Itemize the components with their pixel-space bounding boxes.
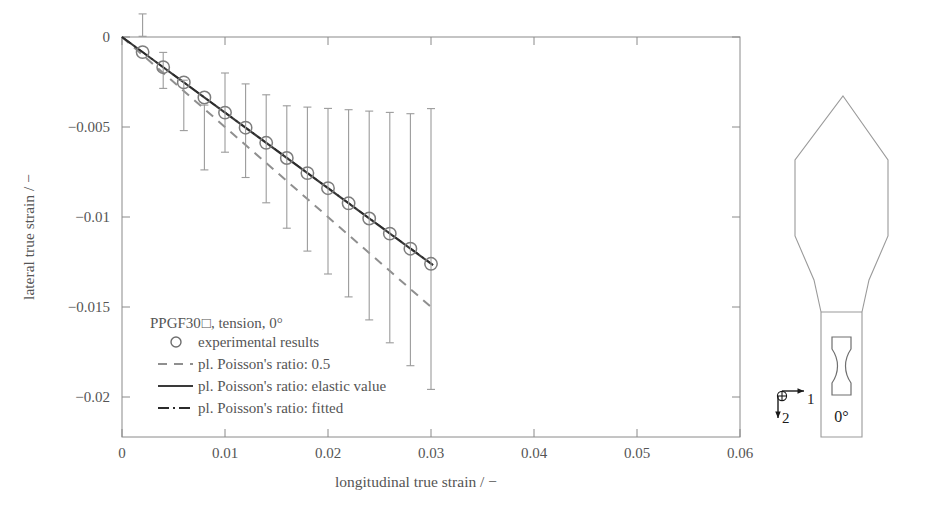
legend-label-experimental: experimental results xyxy=(198,334,319,350)
specimen-diagram: 0° 1 2 xyxy=(775,96,888,437)
y-tick-label: 0 xyxy=(103,29,111,45)
x-tick-label: 0.06 xyxy=(727,445,754,461)
triad-axis-1-arrowhead-icon xyxy=(798,388,805,394)
x-tick-label: 0.04 xyxy=(521,445,548,461)
y-tick-label: −0.02 xyxy=(75,389,110,405)
y-tick-label: −0.015 xyxy=(68,299,110,315)
y-tick-label: −0.01 xyxy=(75,209,110,225)
x-tick-label: 0.02 xyxy=(315,445,341,461)
x-tick-label: 0.01 xyxy=(212,445,238,461)
legend-header-before: PPGF30 xyxy=(150,315,201,331)
x-axis-title: longitudinal true strain / − xyxy=(335,473,497,490)
legend-label-poisson-fitted: pl. Poisson's ratio: fitted xyxy=(198,400,344,416)
legend: PPGF30□, tension, 0° experimental result… xyxy=(150,315,386,416)
specimen-angle-label: 0° xyxy=(834,408,848,425)
y-tick-label: −0.005 xyxy=(68,119,110,135)
figure-root: 0 0.01 0.02 0.03 0.04 0.05 0.06 0 −0.005… xyxy=(0,0,939,510)
x-tick-label: 0.03 xyxy=(418,445,444,461)
triad-axis-1-label: 1 xyxy=(807,391,815,407)
x-tick-labels: 0 0.01 0.02 0.03 0.04 0.05 0.06 xyxy=(118,445,753,461)
triad-axis-2-label: 2 xyxy=(782,410,790,426)
x-tick-label: 0.05 xyxy=(624,445,650,461)
legend-header: PPGF30□, tension, 0° xyxy=(150,315,283,331)
series-poisson-0.5-line xyxy=(122,37,431,307)
y-axis-title: lateral true strain / − xyxy=(20,174,37,300)
triad-axis-2-arrowhead-icon xyxy=(775,412,781,419)
y-tick-labels: 0 −0.005 −0.01 −0.015 −0.02 xyxy=(68,29,110,405)
coordinate-triad: 1 2 xyxy=(775,388,814,426)
x-tick-label: 0 xyxy=(118,445,126,461)
figure-canvas: 0 0.01 0.02 0.03 0.04 0.05 0.06 0 −0.005… xyxy=(0,0,939,510)
legend-missing-glyph: □ xyxy=(202,315,211,331)
legend-label-poisson-elastic: pl. Poisson's ratio: elastic value xyxy=(198,378,386,394)
legend-header-after: , tension, 0° xyxy=(211,315,283,331)
legend-marker-open-circle-icon xyxy=(171,337,181,347)
legend-label-poisson-half: pl. Poisson's ratio: 0.5 xyxy=(198,356,330,372)
